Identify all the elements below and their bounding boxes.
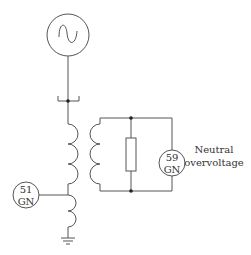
neutral-label-line2: overvoltage (184, 157, 244, 168)
relay-51gn: 51 GN (13, 182, 39, 208)
relay-59gn: 59 GN (159, 150, 185, 176)
relay-59-suffix: GN (164, 164, 181, 175)
generator-icon (47, 14, 89, 56)
transformer-primary-icon (68, 124, 78, 195)
transformer-secondary-icon (90, 118, 100, 191)
current-transformer-icon (68, 195, 76, 238)
neutral-label-line1: Neutral (194, 144, 233, 155)
resistor-icon (126, 138, 136, 171)
relay-51-suffix: GN (18, 196, 35, 207)
relay-59-number: 59 (166, 152, 179, 163)
relay-51-number: 51 (20, 184, 33, 195)
ground-icon (61, 238, 75, 244)
protection-diagram: 59 GN Neutral overvoltage 51 GN (0, 0, 251, 255)
